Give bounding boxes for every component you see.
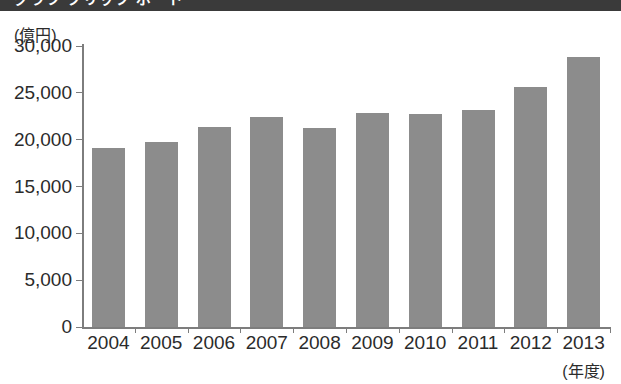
bar — [303, 128, 336, 328]
header-band-title: グラフ クリップ ボード — [14, 0, 184, 8]
x-axis-tick-label: 2012 — [504, 333, 557, 352]
bar — [92, 148, 125, 327]
x-axis-tick-label: 2013 — [557, 333, 610, 352]
bar — [462, 110, 495, 327]
bar — [250, 117, 283, 327]
x-axis-tick-label: 2011 — [452, 333, 505, 352]
x-axis-tick-label: 2008 — [293, 333, 346, 352]
y-axis-tick-label: 25,000 — [14, 83, 72, 102]
bar — [514, 87, 547, 327]
y-axis-tick-label: 30,000 — [14, 36, 72, 55]
y-axis-tick-label: 5,000 — [24, 270, 72, 289]
x-axis-tick-label: 2010 — [399, 333, 452, 352]
bar — [356, 113, 389, 327]
x-axis-title: (年度) — [557, 358, 610, 382]
y-axis-tick-label: 0 — [61, 317, 72, 336]
header-band: グラフ クリップ ボード — [0, 0, 621, 11]
y-axis-tick-label: 15,000 — [14, 177, 72, 196]
x-axis-tick-label: 2007 — [240, 333, 293, 352]
y-axis-tick-label: 10,000 — [14, 223, 72, 242]
bar — [567, 57, 600, 327]
plot-area — [82, 46, 610, 327]
x-axis-tick-label: 2004 — [82, 333, 135, 352]
x-axis-tick-label: 2006 — [188, 333, 241, 352]
bar — [198, 127, 231, 327]
y-axis-labels: 05,00010,00015,00020,00025,00030,000 — [0, 11, 72, 384]
x-axis-tick — [610, 327, 611, 333]
x-axis-tick-label: 2009 — [346, 333, 399, 352]
bar — [145, 142, 178, 327]
bar — [409, 114, 442, 327]
y-axis-tick-label: 20,000 — [14, 130, 72, 149]
bar-chart-figure: (億円) 05,00010,00015,00020,00025,00030,00… — [0, 11, 621, 384]
x-axis-tick-label: 2005 — [135, 333, 188, 352]
